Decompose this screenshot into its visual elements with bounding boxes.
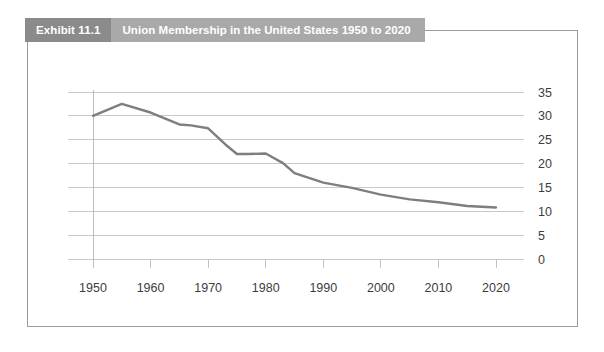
exhibit-number-tag: Exhibit 11.1 — [25, 18, 111, 42]
exhibit-title: Union Membership in the United States 19… — [111, 18, 424, 42]
exhibit-header: Exhibit 11.1 Union Membership in the Uni… — [25, 18, 425, 42]
exhibit-figure: Exhibit 11.1 Union Membership in the Uni… — [0, 0, 604, 352]
chart-frame-border — [27, 30, 578, 327]
